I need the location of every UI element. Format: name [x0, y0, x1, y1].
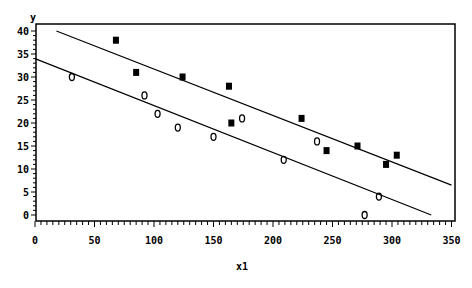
upper-fit-line: [56, 31, 451, 185]
filled-marker: [394, 152, 400, 159]
x-tick-label: 150: [204, 235, 222, 246]
x-axis-label: x1: [236, 261, 248, 272]
open-marker: [142, 92, 147, 99]
y-tick-label: 10: [17, 164, 29, 175]
x-tick-label: 200: [264, 235, 282, 246]
filled-marker: [113, 37, 119, 44]
data-points: [69, 37, 399, 219]
fit-lines: [35, 31, 452, 215]
x-tick-label: 350: [442, 235, 460, 246]
filled-marker: [228, 120, 234, 127]
filled-marker: [180, 74, 186, 81]
chart-canvas: 0510152025303540 050100150200250300350 y…: [0, 0, 472, 288]
y-tick-label: 5: [23, 187, 29, 198]
x-tick-label: 0: [32, 235, 38, 246]
x-axis: 050100150200250300350: [32, 221, 461, 246]
open-marker: [315, 138, 320, 145]
filled-marker: [299, 115, 305, 122]
y-tick-label: 20: [17, 118, 29, 129]
open-marker: [175, 124, 180, 131]
filled-marker: [324, 147, 330, 154]
y-tick-label: 40: [17, 26, 29, 37]
lower-fit-line: [35, 59, 431, 215]
y-tick-label: 0: [23, 210, 29, 221]
scatter-chart: 0510152025303540 050100150200250300350 y…: [0, 0, 472, 288]
x-tick-label: 50: [88, 235, 100, 246]
y-axis: 0510152025303540: [17, 26, 36, 221]
plot-frame: [36, 24, 455, 221]
y-tick-label: 15: [17, 141, 29, 152]
filled-marker: [133, 69, 139, 76]
open-marker: [211, 133, 216, 140]
filled-marker: [354, 143, 360, 150]
filled-marker: [383, 161, 389, 168]
open-marker: [155, 110, 160, 117]
x-tick-label: 250: [323, 235, 341, 246]
y-axis-label: y: [30, 12, 36, 23]
y-tick-label: 30: [17, 72, 29, 83]
plot-border: [36, 24, 455, 221]
open-marker: [362, 212, 367, 219]
y-tick-label: 25: [17, 95, 29, 106]
x-tick-label: 300: [383, 235, 401, 246]
open-marker: [240, 115, 245, 122]
y-tick-label: 35: [17, 49, 29, 60]
filled-marker: [226, 83, 232, 90]
open-marker: [69, 74, 74, 81]
x-tick-label: 100: [145, 235, 163, 246]
